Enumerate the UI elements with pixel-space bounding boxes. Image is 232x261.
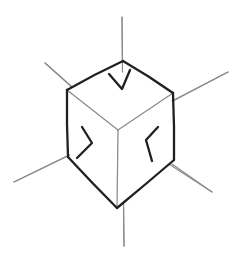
edge-left-vertical (67, 90, 68, 157)
cube-force-diagram (0, 0, 232, 261)
figure-root (0, 0, 232, 261)
axis-vertical-overlay-bottom (124, 208, 125, 246)
axis-vertical-overlay-top (122, 17, 123, 72)
edge-right-vertical (173, 93, 174, 160)
